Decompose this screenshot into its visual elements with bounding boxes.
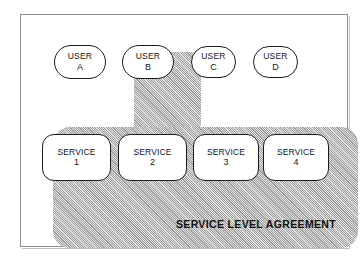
user-node-1-label-line1: USER — [68, 52, 92, 62]
service-node-1[interactable]: SERVICE1 — [42, 134, 111, 181]
user-node-4-label-line1: USER — [263, 52, 287, 62]
service-node-4[interactable]: SERVICE4 — [263, 134, 329, 181]
service-node-2-label-line1: SERVICE — [134, 148, 172, 158]
user-node-3[interactable]: USERC — [191, 46, 236, 78]
user-node-2-label-line1: USER — [136, 52, 160, 62]
service-node-1-label-line1: SERVICE — [58, 148, 96, 158]
user-node-1[interactable]: USERA — [54, 45, 106, 79]
sla-caption: SERVICE LEVEL AGREEMENT — [161, 218, 351, 230]
user-node-3-label-line2: C — [210, 62, 217, 72]
service-node-2[interactable]: SERVICE2 — [118, 134, 187, 181]
service-node-4-label-line1: SERVICE — [277, 148, 315, 158]
diagram-canvas: USERAUSERBUSERCUSERD SERVICE1SERVICE2SER… — [0, 0, 363, 262]
user-node-2-label-line2: B — [145, 62, 151, 72]
service-node-2-label-line2: 2 — [150, 157, 155, 167]
service-node-3-label-line2: 3 — [223, 157, 228, 167]
user-node-3-label-line1: USER — [201, 52, 225, 62]
user-node-4[interactable]: USERD — [253, 46, 298, 78]
service-node-4-label-line2: 4 — [293, 157, 298, 167]
service-node-3[interactable]: SERVICE3 — [193, 134, 259, 181]
user-node-4-label-line2: D — [272, 62, 279, 72]
diagram-frame: USERAUSERBUSERCUSERD SERVICE1SERVICE2SER… — [20, 14, 348, 247]
user-node-1-label-line2: A — [77, 62, 83, 72]
service-node-3-label-line1: SERVICE — [207, 148, 245, 158]
user-node-2[interactable]: USERB — [122, 45, 174, 79]
service-node-1-label-line2: 1 — [74, 157, 79, 167]
